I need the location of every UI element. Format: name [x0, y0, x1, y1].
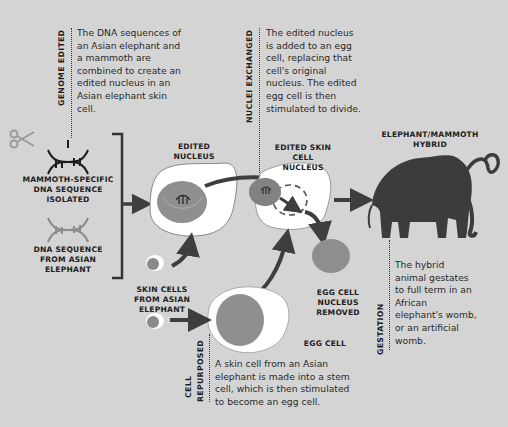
label-egg-cell: EGG CELL [300, 339, 350, 349]
skin-cell-icon [146, 313, 164, 329]
scissors-icon [11, 131, 35, 148]
bracket [112, 134, 122, 278]
step-heading-cell-repurposed-2: REPURPOSED [196, 342, 206, 402]
skin-cell-icon [146, 255, 164, 271]
dna-helix-icon [48, 218, 88, 242]
label-elephant-dna: DNA SEQUENCE FROM ASIAN ELEPHANT [32, 245, 104, 275]
step-heading-gestation: GESTATION [376, 300, 386, 355]
label-edited-skin-cell-nucleus: EDITED SKIN CELL NUCLEUS [272, 143, 334, 173]
label-egg-nucleus-removed: EGG CELL NUCLEUS REMOVED [313, 288, 363, 318]
step-text-cell-repurposed: A skin cell from an Asian elephant is ma… [215, 358, 357, 408]
dna-helix-icon [48, 140, 88, 174]
label-edited-nucleus: EDITED NUCLEUS [168, 142, 220, 162]
label-hybrid: ELEPHANT/MAMMOTH HYBRID [380, 130, 480, 150]
mammoth-silhouette [369, 155, 476, 238]
step-heading-genome-edited: GENOME EDITED [57, 28, 67, 106]
step-divider [71, 28, 72, 138]
step-divider [389, 240, 390, 350]
label-skin-cells: SKIN CELLS FROM ASIAN ELEPHANT [127, 285, 197, 315]
step-heading-cell-repurposed: CELL [184, 340, 194, 398]
label-mammoth-dna: MAMMOTH-SPECIFIC DNA SEQUENCE ISOLATED [22, 175, 114, 205]
step-heading-cell-repurposed-line1: CELL [184, 376, 193, 398]
step-heading-nuclei-exchanged: NUCLEI EXCHANGED [245, 28, 255, 123]
step-divider [259, 28, 260, 173]
step-divider [209, 334, 210, 402]
removed-egg-nucleus [312, 239, 350, 273]
step-text-genome-edited: The DNA sequences of an Asian elephant a… [77, 27, 182, 115]
step-text-gestation: The hybrid animal gestates to full term … [395, 259, 477, 347]
step-text-nuclei-exchanged: The edited nucleus is added to an egg ce… [266, 27, 361, 115]
